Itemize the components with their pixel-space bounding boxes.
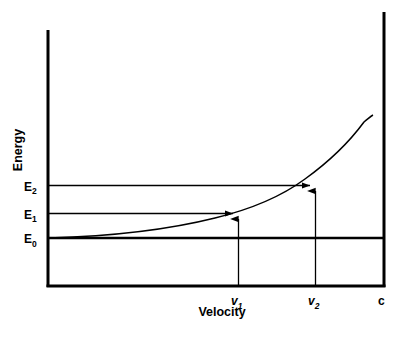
energy-velocity-figure: E2 E1 E0 v1 v2 c Energy Velocity	[0, 0, 402, 338]
y-axis-title: Energy	[11, 129, 25, 171]
energy-curve	[49, 115, 373, 238]
y-tick-label-e0: E0	[24, 232, 37, 249]
x-tick-label-v2: v2	[308, 294, 320, 311]
y-tick-label-e2: E2	[24, 180, 37, 197]
y-tick-label-e1: E1	[24, 208, 37, 225]
figure-canvas: E2 E1 E0 v1 v2 c Energy Velocity	[0, 0, 402, 338]
x-tick-label-c: c	[378, 294, 385, 308]
x-axis-title: Velocity	[198, 305, 245, 319]
